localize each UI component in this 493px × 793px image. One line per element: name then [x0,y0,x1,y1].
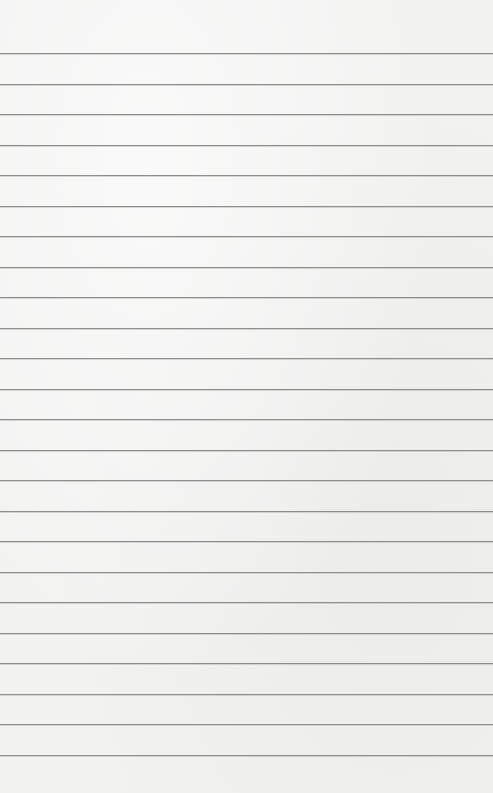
ruled-line [0,297,493,298]
ruled-line [0,450,493,451]
ruled-line [0,267,493,268]
ruled-line [0,206,493,207]
ruled-line [0,511,493,512]
ruled-line [0,358,493,359]
ruled-line [0,114,493,115]
ruled-line [0,724,493,725]
ruled-line [0,633,493,634]
lined-paper [0,0,493,793]
ruled-line [0,663,493,664]
ruled-line [0,236,493,237]
ruled-line [0,389,493,390]
ruled-line [0,84,493,85]
ruled-line [0,755,493,756]
ruled-line [0,175,493,176]
ruled-line [0,602,493,603]
ruled-line [0,541,493,542]
ruled-line [0,480,493,481]
ruled-line [0,145,493,146]
ruled-line [0,53,493,54]
ruled-line [0,419,493,420]
ruled-line [0,328,493,329]
ruled-line [0,572,493,573]
ruled-line [0,694,493,695]
